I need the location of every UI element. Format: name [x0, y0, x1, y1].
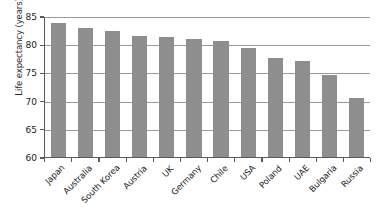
plot-area — [44, 17, 370, 158]
bar[interactable] — [78, 28, 93, 157]
x-tick-mark — [370, 158, 371, 162]
y-tick-label: 80 — [11, 40, 37, 50]
y-tick-label: 65 — [11, 125, 37, 135]
bar-slot — [153, 17, 180, 157]
bar[interactable] — [213, 41, 228, 157]
bar-slot — [207, 17, 234, 157]
bar[interactable] — [105, 31, 120, 157]
bar[interactable] — [132, 36, 147, 157]
bar[interactable] — [159, 37, 174, 157]
bar[interactable] — [295, 61, 310, 157]
x-tick-label: Austria — [121, 163, 149, 191]
x-tick-label: USA — [238, 163, 257, 182]
bar[interactable] — [241, 48, 256, 157]
bar-slot — [126, 17, 153, 157]
bar-slot — [45, 17, 72, 157]
y-tick-label: 85 — [11, 12, 37, 22]
x-axis-labels: JapanAustraliaSouth KoreaAustriaUKGerman… — [44, 160, 370, 218]
x-tick-label: Chile — [208, 163, 230, 185]
bar[interactable] — [186, 39, 201, 157]
bar-series — [45, 17, 370, 157]
bar-slot — [316, 17, 343, 157]
bar-slot — [99, 17, 126, 157]
y-tick-label: 70 — [11, 97, 37, 107]
x-tick-label: Poland — [257, 163, 284, 190]
bar[interactable] — [322, 75, 337, 157]
bar-slot — [289, 17, 316, 157]
y-axis: 606570758085 — [0, 0, 44, 218]
bar[interactable] — [51, 23, 66, 157]
bar[interactable] — [268, 58, 283, 157]
x-tick-label: UAE — [292, 163, 311, 182]
x-tick-label: Bulgaria — [307, 163, 338, 194]
bar-slot — [343, 17, 370, 157]
bar-slot — [72, 17, 99, 157]
y-tick-label: 60 — [11, 153, 37, 163]
bar[interactable] — [349, 98, 364, 157]
y-tick-label: 75 — [11, 68, 37, 78]
bar-slot — [235, 17, 262, 157]
x-tick-label: UK — [160, 163, 175, 178]
bar-slot — [180, 17, 207, 157]
x-tick-label: Japan — [43, 163, 66, 186]
bar-chart: Life expectancy (years) 606570758085 Jap… — [0, 0, 380, 218]
x-tick-label: Russia — [339, 163, 365, 189]
bar-slot — [262, 17, 289, 157]
